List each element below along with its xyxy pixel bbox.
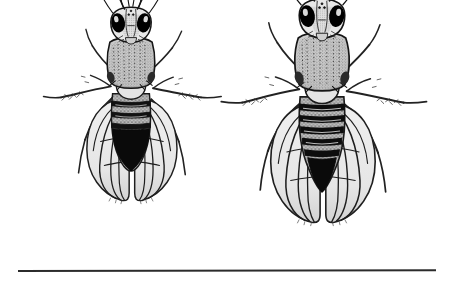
- fly-illustration: [0, 0, 453, 282]
- bottom-rule: [18, 270, 436, 271]
- figure-root: Two fruit flies shown in dorsal view, ma…: [0, 0, 453, 282]
- figure-background: [0, 0, 453, 282]
